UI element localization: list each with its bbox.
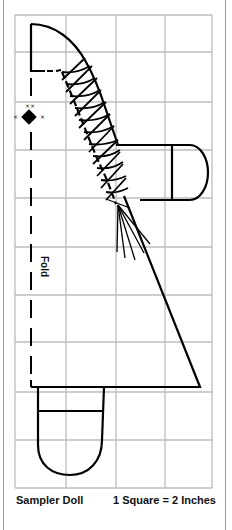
svg-text:××: ×× xyxy=(25,102,35,109)
arm-outline xyxy=(116,145,208,200)
svg-text:×: × xyxy=(13,113,18,120)
body-inner-edge xyxy=(62,72,116,204)
grid xyxy=(15,15,212,488)
caption: Sampler Doll 1 Square = 2 Inches xyxy=(16,494,216,506)
pattern-title: Sampler Doll xyxy=(16,494,83,506)
leg-outline xyxy=(38,387,104,475)
scale-label: 1 Square = 2 Inches xyxy=(113,494,216,506)
svg-text:×: × xyxy=(40,113,45,120)
embroidery-star-icon: ×× × × xyxy=(13,102,45,124)
neck-dash xyxy=(47,70,61,71)
cross-stitch-lattice xyxy=(62,58,128,200)
fold-label: Fold xyxy=(39,256,50,277)
